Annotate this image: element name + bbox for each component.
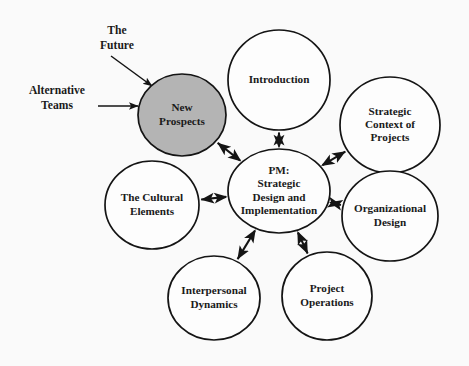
annotation-arrow-the-future bbox=[111, 56, 152, 86]
annotation-text-layer: TheFutureAlternativeTeams bbox=[29, 24, 134, 112]
node-interpersonal-dynamics[interactable]: InterpersonalDynamics bbox=[168, 256, 260, 340]
connector-cultural-elements bbox=[201, 197, 226, 200]
node-label-introduction: Introduction bbox=[249, 73, 310, 85]
strategic-design-diagram: NewProspectsIntroductionStrategicContext… bbox=[0, 0, 469, 366]
annotation-label-alternative-teams: AlternativeTeams bbox=[29, 84, 85, 112]
node-the-cultural-elements[interactable]: The CulturalElements bbox=[105, 161, 199, 249]
nodes-layer: NewProspectsIntroductionStrategicContext… bbox=[105, 30, 440, 340]
node-organizational-design[interactable]: OrganizationalDesign bbox=[342, 171, 438, 261]
node-label-strategic-context-of-projects: StrategicContext ofProjects bbox=[365, 104, 415, 143]
node-project-operations[interactable]: ProjectOperations bbox=[282, 252, 372, 340]
connector-interpersonal-dynamics bbox=[238, 231, 255, 259]
diagram-canvas: NewProspectsIntroductionStrategicContext… bbox=[0, 0, 469, 366]
node-label-interpersonal-dynamics: InterpersonalDynamics bbox=[181, 284, 246, 309]
node-pm-strategic-design[interactable]: PM:StrategicDesign andImplementation bbox=[228, 149, 330, 233]
connector-strategic-context bbox=[323, 152, 346, 166]
node-label-the-cultural-elements: The CulturalElements bbox=[121, 191, 183, 216]
connector-project-operations bbox=[298, 233, 308, 254]
annotation-label-the-future: TheFuture bbox=[100, 24, 134, 52]
node-strategic-context-of-projects[interactable]: StrategicContext ofProjects bbox=[340, 77, 440, 173]
node-introduction[interactable]: Introduction bbox=[228, 30, 330, 130]
connector-new-prospects bbox=[218, 143, 240, 161]
connector-organizational-design bbox=[331, 203, 341, 205]
node-new-prospects[interactable]: NewProspects bbox=[138, 74, 226, 156]
